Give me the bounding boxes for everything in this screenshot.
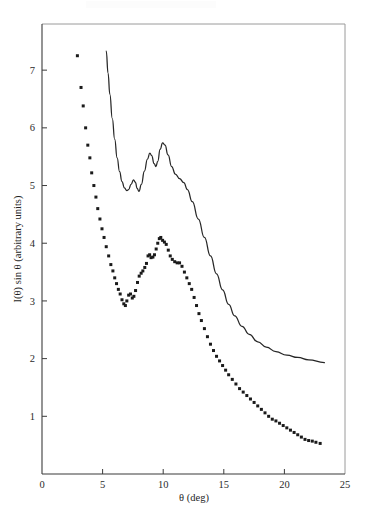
y-axis-label: I(θ) sin θ (arbitrary units) xyxy=(12,195,24,302)
data-point xyxy=(120,298,123,301)
data-point xyxy=(90,171,93,174)
data-point xyxy=(107,254,110,257)
data-point xyxy=(100,227,103,230)
x-axis-ticks: 0510152025 xyxy=(39,469,350,490)
data-point xyxy=(278,422,281,425)
data-point xyxy=(143,266,146,269)
x-tick-label: 15 xyxy=(219,479,230,490)
data-point xyxy=(86,144,89,147)
chart-canvas: 1234567 0510152025 θ (deg) I(θ) sin θ (a… xyxy=(0,0,366,515)
data-point xyxy=(94,196,97,199)
data-point xyxy=(221,364,224,367)
data-point xyxy=(169,254,172,257)
data-point xyxy=(253,401,256,404)
x-tick-label: 10 xyxy=(158,479,169,490)
data-point xyxy=(319,442,322,445)
data-point xyxy=(209,343,212,346)
y-tick-label: 1 xyxy=(30,411,35,422)
data-point xyxy=(117,288,120,291)
data-point xyxy=(185,276,188,279)
data-point xyxy=(264,411,267,414)
data-point xyxy=(293,431,296,434)
data-point xyxy=(307,439,310,442)
data-point xyxy=(224,369,227,372)
data-point xyxy=(109,263,112,266)
data-point xyxy=(215,355,218,358)
x-tick-label: 0 xyxy=(39,479,44,490)
y-tick-label: 6 xyxy=(30,122,35,133)
data-point xyxy=(115,282,118,285)
data-point xyxy=(155,248,158,251)
data-point xyxy=(296,433,299,436)
x-tick-label: 20 xyxy=(279,479,290,490)
data-point xyxy=(178,261,181,264)
data-point xyxy=(267,415,270,418)
data-point xyxy=(274,419,277,422)
data-point xyxy=(167,249,170,252)
plot-frame xyxy=(42,24,345,474)
data-point xyxy=(289,429,292,432)
data-point xyxy=(165,243,168,246)
data-point xyxy=(282,424,285,427)
data-point xyxy=(84,126,87,129)
x-axis-label: θ (deg) xyxy=(179,492,209,504)
data-point xyxy=(314,441,317,444)
data-point xyxy=(129,293,132,296)
x-tick-label: 25 xyxy=(340,479,351,490)
data-point xyxy=(212,349,215,352)
data-point xyxy=(98,218,101,221)
data-point xyxy=(156,242,159,245)
data-point xyxy=(96,207,99,210)
data-point xyxy=(113,276,116,279)
data-point xyxy=(260,408,263,411)
data-point xyxy=(218,359,221,362)
data-point xyxy=(111,269,114,272)
y-tick-label: 7 xyxy=(30,65,35,76)
data-point xyxy=(138,275,141,278)
y-tick-label: 4 xyxy=(30,238,36,249)
data-point xyxy=(82,104,85,107)
y-tick-label: 5 xyxy=(30,180,35,191)
data-point xyxy=(119,293,122,296)
data-point xyxy=(188,282,191,285)
data-point xyxy=(180,265,183,268)
data-point xyxy=(148,253,151,256)
data-point xyxy=(200,319,203,322)
data-point xyxy=(195,304,198,307)
figure-container: 1234567 0510152025 θ (deg) I(θ) sin θ (a… xyxy=(0,0,366,515)
data-point xyxy=(76,54,79,57)
data-point xyxy=(256,404,259,407)
data-point xyxy=(145,262,148,265)
data-point xyxy=(125,299,128,302)
data-point xyxy=(206,335,209,338)
data-point xyxy=(249,398,252,401)
data-point xyxy=(285,426,288,429)
data-point xyxy=(103,236,106,239)
data-point xyxy=(242,391,245,394)
data-point xyxy=(183,271,186,274)
data-point xyxy=(238,387,241,390)
data-point xyxy=(245,394,248,397)
data-point xyxy=(231,378,234,381)
data-point xyxy=(88,156,91,159)
data-point xyxy=(141,269,144,272)
data-point xyxy=(124,304,127,307)
data-point xyxy=(197,312,200,315)
data-point xyxy=(153,253,156,256)
y-tick-label: 2 xyxy=(30,353,35,364)
y-tick-label: 3 xyxy=(30,296,35,307)
data-point xyxy=(203,327,206,330)
data-point xyxy=(193,296,196,299)
data-point xyxy=(80,86,83,89)
data-series-layer xyxy=(76,51,325,445)
data-point xyxy=(92,184,95,187)
data-point xyxy=(105,245,108,248)
series-points-experimental-data xyxy=(76,54,322,445)
data-point xyxy=(227,373,230,376)
data-point xyxy=(234,383,237,386)
data-point xyxy=(190,288,193,291)
y-axis-ticks: 1234567 xyxy=(30,65,47,422)
data-point xyxy=(136,281,139,284)
data-point xyxy=(159,236,162,239)
data-point xyxy=(132,295,135,298)
